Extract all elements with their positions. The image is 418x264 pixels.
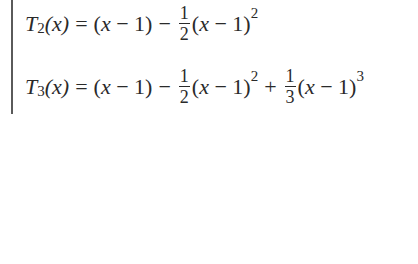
- fraction-denominator: 2: [179, 87, 190, 106]
- fraction-numerator: 1: [285, 67, 296, 87]
- equals-sign: =: [75, 76, 87, 98]
- equals-sign: =: [75, 13, 87, 35]
- fraction: 1 3: [285, 67, 296, 106]
- operator: −: [158, 13, 170, 35]
- lhs-arg: (x): [45, 13, 69, 35]
- fraction-denominator: 3: [285, 87, 296, 106]
- equation-t3: T3(x) = (x − 1) − 1 2 (x − 1)2 + 1 3 (x …: [25, 67, 364, 106]
- term-base: (x − 1): [192, 13, 251, 35]
- fraction: 1 2: [179, 67, 190, 106]
- equation-t2: T2(x) = (x − 1) − 1 2 (x − 1)2: [25, 4, 258, 43]
- fraction-denominator: 2: [179, 24, 190, 43]
- term-linear: (x − 1): [94, 76, 153, 98]
- lhs-subscript: 2: [37, 21, 45, 36]
- margin-bar: [11, 0, 13, 114]
- term-linear: (x − 1): [94, 13, 153, 35]
- term-base: (x − 1): [192, 76, 251, 98]
- term-base: (x − 1): [298, 76, 357, 98]
- term-power: 2: [251, 6, 259, 21]
- lhs-symbol: T: [25, 13, 37, 35]
- fraction: 1 2: [179, 4, 190, 43]
- operator: +: [264, 76, 276, 98]
- lhs-symbol: T: [25, 76, 37, 98]
- term-power: 3: [356, 69, 364, 84]
- lhs-subscript: 3: [37, 84, 45, 99]
- lhs-arg: (x): [45, 76, 69, 98]
- term-power: 2: [251, 69, 259, 84]
- operator: −: [158, 76, 170, 98]
- fraction-numerator: 1: [179, 4, 190, 24]
- fraction-numerator: 1: [179, 67, 190, 87]
